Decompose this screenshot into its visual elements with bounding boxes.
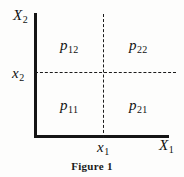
y-tick-base: x: [12, 65, 19, 81]
p11-subscript: 11: [68, 104, 78, 115]
quadrant-label-lower-left: p11: [60, 98, 78, 115]
p21-symbol: p: [129, 97, 137, 113]
x-axis-label-subscript: 1: [169, 144, 174, 155]
x-tick-base: x: [97, 139, 104, 155]
y-axis-line: [34, 13, 37, 138]
y-tick-subscript: 2: [19, 72, 24, 83]
quadrant-label-lower-right: p21: [129, 98, 148, 115]
p12-subscript: 12: [68, 44, 79, 55]
y-axis-label-subscript: 2: [23, 14, 28, 25]
x-axis-line: [34, 135, 169, 138]
x-axis-label: X1: [159, 138, 174, 155]
horizontal-dashed-partition-line: [35, 72, 176, 73]
y-axis-tick-label: x2: [12, 66, 24, 83]
p21-subscript: 21: [137, 104, 148, 115]
x-axis-tick-label: x1: [97, 140, 109, 157]
y-axis-label-base: X: [13, 7, 22, 23]
x-axis-label-base: X: [159, 137, 168, 153]
x-tick-subscript: 1: [104, 146, 109, 157]
p22-subscript: 22: [137, 44, 148, 55]
figure-caption: Figure 1: [0, 160, 184, 172]
p12-symbol: p: [60, 37, 68, 53]
vertical-dashed-partition-line: [103, 14, 104, 138]
quadrant-label-upper-left: p12: [60, 38, 79, 55]
quadrant-label-upper-right: p22: [129, 38, 148, 55]
p22-symbol: p: [129, 37, 137, 53]
y-axis-label: X2: [13, 8, 28, 25]
p11-symbol: p: [60, 97, 68, 113]
figure-container: X2 X1 x2 x1 p12 p22 p11 p21 Figure 1: [0, 0, 184, 177]
